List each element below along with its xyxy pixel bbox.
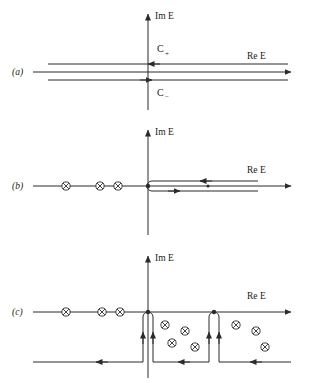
panel-b-label: (b) — [12, 181, 23, 192]
panel-c-real-axis-label: Re E — [247, 291, 266, 301]
panel-b-axis-dot — [207, 185, 210, 188]
panel-a: (a) Re E Im E C + C − — [12, 11, 291, 110]
panel-b-pole — [96, 182, 104, 190]
panel-c-pole — [252, 327, 260, 335]
contour-c-minus-sublabel: − — [165, 93, 169, 101]
panel-c-imaginary-axis-label: Im E — [155, 253, 174, 263]
panel-b-imaginary-axis-label: Im E — [155, 127, 174, 137]
contour-c-plus-label: C — [157, 43, 164, 54]
panel-a-label: (a) — [12, 67, 23, 78]
panel-c-label: (c) — [12, 307, 23, 318]
contour-c-minus-label: C — [157, 87, 164, 98]
panel-c-pole — [191, 343, 199, 351]
panel-c-pole — [62, 308, 70, 316]
panel-c-pole — [261, 343, 269, 351]
contour-c-plus-sublabel: + — [165, 50, 169, 58]
panel-b-branch-point-marker — [146, 184, 150, 188]
panel-c-pole — [116, 308, 124, 316]
panel-b: (b) Re E Im E — [12, 127, 291, 235]
panel-a-real-axis-label: Re E — [247, 51, 266, 61]
figure-container: (a) Re E Im E C + C − (b) Re E Im E (c) — [0, 0, 309, 383]
panel-b-real-axis-label: Re E — [247, 165, 266, 175]
panel-c-keyhole-contour — [33, 312, 291, 362]
panel-c-pole — [161, 321, 169, 329]
panel-c-notch-marker-1 — [146, 310, 150, 314]
panel-c-notch-marker-2 — [212, 310, 216, 314]
panel-c-pole — [232, 321, 240, 329]
panel-c-pole — [98, 308, 106, 316]
panel-a-imaginary-axis-label: Im E — [155, 11, 174, 21]
panel-b-pole — [62, 182, 70, 190]
panel-c-pole — [181, 327, 189, 335]
complex-plane-contour-figure: (a) Re E Im E C + C − (b) Re E Im E (c) — [0, 0, 309, 383]
panel-c-pole — [168, 339, 176, 347]
panel-c: (c) Re E Im E — [12, 253, 291, 378]
panel-b-pole — [114, 182, 122, 190]
